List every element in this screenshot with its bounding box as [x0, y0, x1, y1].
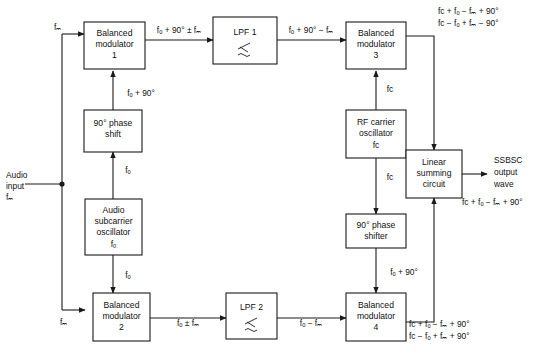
block-label-line: 2 — [119, 322, 124, 332]
label-lpf2-output: fₒ − fₘ — [300, 318, 322, 328]
label-bm1-output: fₒ + 90° ± fₘ — [157, 25, 201, 35]
label-fm-bottom: fₘ — [60, 317, 67, 327]
block-label-line: summing — [417, 168, 452, 178]
block-rf-carrier-oscillator[interactable]: RF carrier oscillator fᴄ — [346, 110, 406, 158]
audio-input-line: fₘ — [6, 192, 13, 202]
block-label-line: shifter — [364, 231, 388, 241]
label-bm2-output: fₒ ± fₘ — [177, 318, 199, 328]
wire-bm4-to-summing — [406, 198, 434, 322]
block-label-line: Balanced — [358, 300, 394, 310]
block-label-line: RF carrier — [357, 117, 395, 127]
block-label-line: oscillator — [359, 128, 393, 138]
block-outline — [213, 17, 277, 64]
label-ssbsc-output: SSBSC output wave fᴄ + fₒ − fₘ + 90° — [462, 155, 523, 207]
block-label-line: Balanced — [104, 300, 140, 310]
block-label-line: Linear — [422, 157, 446, 167]
block-lpf-1[interactable]: LPF 1 — [213, 17, 277, 64]
block-balanced-modulator-2[interactable]: Balanced modulator 2 — [93, 293, 150, 341]
wire-bm3-to-summing — [406, 36, 434, 150]
label-bm3-output: fᴄ + fₒ − fₘ + 90° fᴄ − fₒ + fₘ − 90° — [438, 6, 499, 28]
block-label-line: Audio — [103, 205, 125, 215]
block-label-line: circuit — [423, 179, 446, 189]
junction-dot-audio-input — [59, 181, 64, 186]
bm4-output-line: fᴄ + fₒ − fₘ + 90° — [409, 319, 470, 329]
block-label-line: 90° phase — [94, 118, 133, 128]
block-label-line: fᴄ — [373, 140, 380, 150]
block-label-line: Balanced — [97, 28, 133, 38]
bm3-output-line: fᴄ + fₒ − fₘ + 90° — [438, 6, 499, 16]
output-title-line: output — [494, 167, 518, 177]
label-lpf1-output: fₒ + 90° − fₘ — [289, 25, 334, 35]
block-90-phase-shifter[interactable]: 90° phase shifter — [346, 214, 406, 248]
block-label-line: modulator — [102, 311, 140, 321]
label-fm-top: fₘ — [54, 22, 61, 32]
label-fo-plus-90-top: fₒ + 90° — [127, 88, 155, 98]
block-label-line: modulator — [357, 311, 395, 321]
output-expression: fᴄ + fₒ − fₘ + 90° — [462, 197, 523, 207]
block-linear-summing-circuit[interactable]: Linear summing circuit — [406, 150, 462, 198]
block-label-line: 4 — [374, 322, 379, 332]
block-audio-subcarrier-oscillator[interactable]: Audio subcarrier oscillator fₒ — [85, 199, 142, 255]
block-balanced-modulator-4[interactable]: Balanced modulator 4 — [346, 293, 406, 341]
label-bm4-output: fᴄ + fₒ − fₘ + 90° fᴄ − fₒ + fₘ + 90° — [409, 319, 470, 341]
label-fc-to-phase-shifter: fᴄ — [387, 172, 394, 182]
audio-input-line: input — [6, 181, 25, 191]
label-fo-to-bm2: fₒ — [125, 270, 131, 280]
label-audio-input: Audio input fₘ — [6, 170, 28, 202]
block-balanced-modulator-1[interactable]: Balanced modulator 1 — [84, 22, 145, 69]
block-label-line: subcarrier — [94, 216, 132, 226]
block-label-line: fₒ — [111, 239, 117, 249]
block-label-line: Balanced — [358, 28, 394, 38]
block-label-line: modulator — [357, 39, 395, 49]
block-balanced-modulator-3[interactable]: Balanced modulator 3 — [346, 22, 406, 69]
block-90-phase-shift[interactable]: 90° phase shift — [84, 110, 142, 152]
block-label-line: oscillator — [97, 227, 131, 237]
output-title-line: SSBSC — [494, 155, 522, 165]
audio-input-line: Audio — [6, 170, 28, 180]
block-label-line: modulator — [95, 39, 133, 49]
label-fc-to-bm3: fᴄ — [387, 84, 394, 94]
block-label-line: 1 — [112, 50, 117, 60]
bm3-output-line: fᴄ − fₒ + fₘ − 90° — [438, 18, 499, 28]
ssbsc-block-diagram: Balanced modulator 1 LPF 1 Balanced modu… — [0, 0, 547, 357]
label-fo-to-phase-shift: fₒ — [125, 165, 131, 175]
block-label-line: 90° phase — [357, 220, 396, 230]
block-outline — [226, 293, 277, 339]
block-label-line: LPF 2 — [240, 302, 263, 312]
label-fo-plus-90-bottom: fₒ + 90° — [390, 267, 418, 277]
block-label-line: shift — [105, 129, 121, 139]
output-title-line: wave — [493, 179, 514, 189]
block-label-line: LPF 1 — [234, 27, 257, 37]
bm4-output-line: fᴄ − fₒ + fₘ + 90° — [409, 331, 470, 341]
block-lpf-2[interactable]: LPF 2 — [226, 293, 277, 339]
block-label-line: 3 — [374, 50, 379, 60]
